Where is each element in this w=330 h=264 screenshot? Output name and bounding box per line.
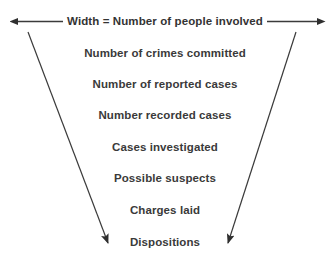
width-caption: Width = Number of people involved [0, 15, 330, 28]
crime-funnel-diagram: Width = Number of people involved Number… [0, 0, 330, 264]
stage-label-charges-laid: Charges laid [0, 204, 330, 217]
stage-label-cases-investigated: Cases investigated [0, 141, 330, 154]
stage-label-dispositions: Dispositions [0, 236, 330, 249]
stage-label-crimes-committed: Number of crimes committed [0, 47, 330, 60]
width-caption-label: Width = Number of people involved [63, 15, 267, 27]
stage-label-reported-cases: Number of reported cases [0, 78, 330, 91]
diagram-text-layer: Width = Number of people involved Number… [0, 0, 330, 264]
stage-label-recorded-cases: Number recorded cases [0, 109, 330, 122]
stage-label-possible-suspects: Possible suspects [0, 172, 330, 185]
